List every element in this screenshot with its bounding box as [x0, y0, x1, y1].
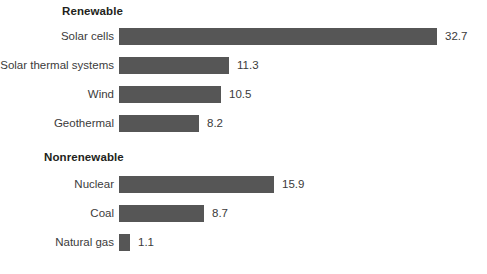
value-label: 11.3 — [237, 57, 259, 74]
group-heading-nonrenewable: Nonrenewable — [44, 151, 124, 163]
bar — [119, 176, 274, 193]
bar — [119, 57, 229, 74]
bar — [119, 115, 199, 132]
category-label: Solar thermal systems — [0, 57, 114, 74]
chart-row: Nuclear 15.9 — [0, 176, 487, 193]
bar — [119, 86, 221, 103]
chart-row: Coal 8.7 — [0, 205, 487, 222]
category-label: Geothermal — [0, 115, 114, 132]
bar-track: 32.7 — [119, 28, 483, 45]
category-label: Wind — [0, 86, 114, 103]
bar-track: 8.7 — [119, 205, 483, 222]
value-label: 32.7 — [445, 28, 467, 45]
category-label: Solar cells — [0, 28, 114, 45]
bar-track: 15.9 — [119, 176, 483, 193]
chart-row: Geothermal 8.2 — [0, 115, 487, 132]
value-label: 15.9 — [282, 176, 304, 193]
bar — [119, 205, 204, 222]
bar — [119, 28, 437, 45]
bar-chart: Renewable Solar cells 32.7 Solar thermal… — [0, 0, 487, 274]
category-label: Natural gas — [0, 234, 114, 251]
value-label: 10.5 — [229, 86, 251, 103]
value-label: 8.2 — [207, 115, 223, 132]
group-heading-renewable: Renewable — [62, 5, 123, 17]
bar-track: 11.3 — [119, 57, 483, 74]
category-label: Coal — [0, 205, 114, 222]
category-label: Nuclear — [0, 176, 114, 193]
chart-row: Solar thermal systems 11.3 — [0, 57, 487, 74]
bar — [119, 234, 130, 251]
bar-track: 1.1 — [119, 234, 483, 251]
bar-track: 8.2 — [119, 115, 483, 132]
value-label: 8.7 — [212, 205, 228, 222]
chart-row: Solar cells 32.7 — [0, 28, 487, 45]
chart-row: Natural gas 1.1 — [0, 234, 487, 251]
bar-track: 10.5 — [119, 86, 483, 103]
value-label: 1.1 — [138, 234, 154, 251]
chart-row: Wind 10.5 — [0, 86, 487, 103]
